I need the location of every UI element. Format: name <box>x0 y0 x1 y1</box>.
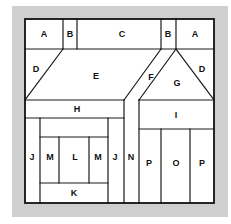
piece-label-f: F <box>148 72 154 82</box>
piece-label-j-left: J <box>29 152 34 162</box>
piece-label-j-right: J <box>112 152 117 162</box>
piece-label-a-left: A <box>41 29 48 39</box>
piece-label-h: H <box>74 104 81 114</box>
block-panel <box>25 19 214 203</box>
quilt-block-diagram: ABCBADEFGDHIJMLMJNPOPK <box>0 0 231 224</box>
piece-label-d-left: D <box>33 64 40 74</box>
piece-label-l: L <box>72 152 78 162</box>
piece-label-e: E <box>93 71 99 81</box>
piece-label-p-left: P <box>146 158 152 168</box>
piece-label-c: C <box>119 29 126 39</box>
piece-label-m-right: M <box>94 152 102 162</box>
piece-label-p-right: P <box>199 158 205 168</box>
piece-label-i: I <box>175 110 178 120</box>
piece-label-a-right: A <box>192 29 199 39</box>
piece-label-n: N <box>128 152 135 162</box>
piece-label-g: G <box>173 78 180 88</box>
piece-label-m-left: M <box>46 152 54 162</box>
piece-label-b-right: B <box>165 29 172 39</box>
piece-label-o: O <box>172 158 179 168</box>
piece-label-k: K <box>71 188 78 198</box>
piece-label-b-left: B <box>67 29 74 39</box>
piece-label-d-right: D <box>199 64 206 74</box>
